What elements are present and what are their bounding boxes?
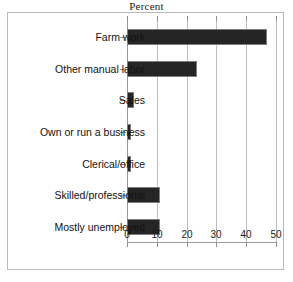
chart-title: Percent [0,0,293,12]
x-tick-mark [157,242,158,247]
category-label: Other manual labor [55,63,145,75]
x-tick-mark [187,16,188,21]
x-tick-mark [157,16,158,21]
category-label: Own or run a business [40,126,145,138]
x-tick-label: 10 [151,229,162,240]
gridline [216,21,217,243]
gridline [157,21,158,243]
category-label: Clerical/office [82,158,145,170]
x-tick-label: 50 [270,229,281,240]
x-axis-line [127,242,277,243]
x-tick-mark [246,16,247,21]
plot-area [127,21,277,243]
x-tick-mark [127,16,128,21]
category-label: Farm work [95,31,145,43]
x-tick-mark [187,242,188,247]
category-label: Skilled/professional [55,189,145,201]
gridline [246,21,247,243]
x-tick-label: 30 [210,229,221,240]
x-tick-label: 40 [240,229,251,240]
x-tick-mark [216,242,217,247]
category-label: Sales [119,94,145,106]
bar [127,29,267,45]
gridline [276,21,277,243]
x-tick-mark [216,16,217,21]
x-tick-label: 20 [181,229,192,240]
x-tick-mark [276,16,277,21]
x-tick-mark [127,242,128,247]
category-label: Mostly unemployed [55,221,145,233]
gridline [187,21,188,243]
x-tick-mark [246,242,247,247]
x-tick-mark [276,242,277,247]
